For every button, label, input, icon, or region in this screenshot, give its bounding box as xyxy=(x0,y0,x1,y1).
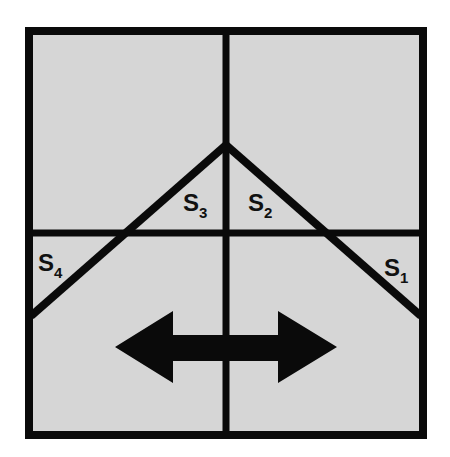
svg-text:S: S xyxy=(384,254,400,281)
svg-text:4: 4 xyxy=(54,264,63,281)
svg-text:3: 3 xyxy=(199,204,207,221)
svg-text:S: S xyxy=(38,249,54,276)
svg-text:2: 2 xyxy=(264,204,272,221)
svg-text:S: S xyxy=(248,189,264,216)
svg-text:S: S xyxy=(183,189,199,216)
svg-text:1: 1 xyxy=(400,269,408,286)
diagram-canvas: S 1 S 2 S 3 S 4 xyxy=(0,0,450,457)
